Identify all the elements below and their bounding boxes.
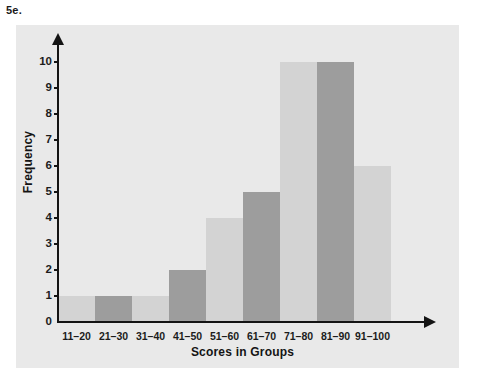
y-axis-line <box>57 43 59 322</box>
y-axis-tick-label: 2 <box>30 264 52 276</box>
x-axis-tick-label: 71–80 <box>280 327 317 345</box>
x-axis-line <box>57 321 426 323</box>
x-axis-tick-label: 61–70 <box>243 327 280 345</box>
y-axis-tick-label: 3 <box>30 238 52 250</box>
x-axis-tick-label: 51–60 <box>206 327 243 345</box>
x-axis-tick-label: 31–40 <box>132 327 169 345</box>
bar <box>317 62 354 322</box>
bar <box>243 192 280 322</box>
y-axis-tick-label: 0 <box>30 316 52 328</box>
bar <box>280 62 317 322</box>
bar <box>206 218 243 322</box>
bar <box>58 296 95 322</box>
histogram-figure: 5e. 109876543210 11–2021–3031–4041–5051–… <box>0 0 479 381</box>
bar <box>95 296 132 322</box>
x-axis-title: Scores in Groups <box>58 345 427 359</box>
y-axis-tick-label: 10 <box>30 56 52 68</box>
y-axis-title: Frequency <box>21 92 35 232</box>
y-axis-tick-label: 1 <box>30 290 52 302</box>
bar-series <box>58 62 391 322</box>
x-axis-tick-label: 21–30 <box>95 327 132 345</box>
x-axis-tick-label: 11–20 <box>58 327 95 345</box>
bar <box>132 296 169 322</box>
x-axis-tick-label: 81–90 <box>317 327 354 345</box>
problem-label: 5e. <box>6 4 22 16</box>
y-axis-arrow-icon <box>52 33 64 45</box>
chart-panel: 109876543210 11–2021–3031–4041–5051–6061… <box>16 25 459 368</box>
x-axis-tick-label: 41–50 <box>169 327 206 345</box>
plot-area: 109876543210 11–2021–3031–4041–5051–6061… <box>16 25 459 368</box>
bar <box>354 166 391 322</box>
x-axis-arrow-icon <box>424 316 436 328</box>
x-axis-tick-label: 91–100 <box>354 327 391 345</box>
x-axis-tick-labels: 11–2021–3031–4041–5051–6061–7071–8081–90… <box>58 327 391 345</box>
bar <box>169 270 206 322</box>
